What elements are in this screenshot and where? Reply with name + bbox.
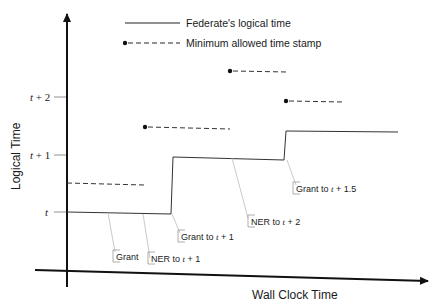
x-axis-title: Wall Clock Time xyxy=(252,288,338,302)
event-ner-to-t-plus-1: NER to t + 1 xyxy=(148,252,200,264)
min-timestamp-lines xyxy=(67,69,343,185)
legend: Federate's logical time Minimum allowed … xyxy=(123,17,322,49)
y-tick-label-t: t xyxy=(45,206,49,218)
legend-dot-icon xyxy=(123,41,127,45)
event-ner-to-t-plus-2: NER to t + 2 xyxy=(248,215,300,227)
y-tick-label-t-plus-2: t + 2 xyxy=(30,91,50,103)
event-grant-to-t-plus-1: Grant to t + 1 xyxy=(178,230,234,242)
event-grant-to-t-plus-1-5: Grant to t + 1.5 xyxy=(293,182,356,194)
legend-solid-label: Federate's logical time xyxy=(186,17,291,29)
event-grant: Grant xyxy=(113,250,139,262)
svg-text:Grant to t + 1.5: Grant to t + 1.5 xyxy=(296,184,356,194)
y-axis-title: Logical Time xyxy=(9,122,23,190)
x-axis xyxy=(35,270,428,281)
y-ticks: t + 2 t + 1 t xyxy=(30,91,66,218)
svg-text:Grant: Grant xyxy=(116,252,139,262)
diagram-canvas: t + 2 t + 1 t Logical Time Wall Clock Ti… xyxy=(0,0,439,306)
logical-time-line xyxy=(67,131,398,214)
y-tick-label-t-plus-1: t + 1 xyxy=(30,149,50,161)
svg-text:NER to t + 1: NER to t + 1 xyxy=(151,254,200,264)
svg-text:Grant to t + 1: Grant to t + 1 xyxy=(181,232,234,242)
event-leader-lines xyxy=(108,158,296,258)
legend-dashed-label: Minimum allowed time stamp xyxy=(186,37,322,49)
svg-text:NER to t + 2: NER to t + 2 xyxy=(251,217,300,227)
